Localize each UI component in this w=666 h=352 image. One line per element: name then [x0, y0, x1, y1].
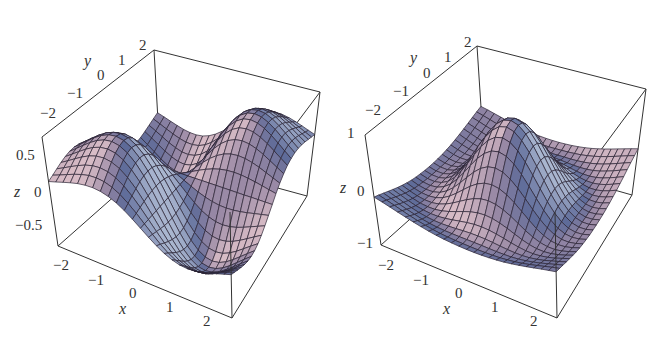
x-tick: 2 — [530, 313, 538, 329]
surface-plot-right: −2 −1 0 1 2 y 1 0 −1 z −2 −1 0 1 2 x — [339, 34, 646, 329]
x-tick: −1 — [88, 272, 104, 288]
z-tick: 1 — [347, 125, 355, 141]
surface-plot-left: −2 −1 0 1 2 y 0.5 0 −0.5 z −2 −1 0 1 2 x — [13, 37, 320, 329]
y-tick: −2 — [365, 102, 381, 118]
y-axis-label: y — [408, 49, 418, 67]
box-edge — [307, 92, 320, 196]
y-tick: 0 — [423, 65, 431, 81]
y-tick: −1 — [67, 85, 83, 101]
x-tick: 0 — [455, 285, 463, 301]
x-tick: 2 — [203, 313, 211, 329]
z-tick: 0 — [357, 183, 365, 199]
box-edge — [365, 46, 477, 135]
z-tick: 0 — [34, 184, 42, 200]
x-tick: −2 — [378, 257, 394, 273]
box-edge — [365, 135, 381, 245]
x-tick: 0 — [129, 285, 137, 301]
z-axis-label: z — [339, 179, 347, 196]
y-tick: 2 — [464, 34, 472, 50]
y-tick: 0 — [97, 67, 105, 83]
figure: −2 −1 0 1 2 y 0.5 0 −0.5 z −2 −1 0 1 2 x… — [0, 0, 666, 352]
surface-mesh — [374, 106, 638, 271]
box-edge — [477, 46, 646, 89]
z-tick: −0.5 — [15, 217, 42, 233]
y-tick: −2 — [40, 105, 56, 121]
y-axis-label: y — [82, 52, 92, 70]
y-tick: −1 — [393, 83, 409, 99]
z-axis-label: z — [13, 183, 21, 200]
x-tick: −2 — [53, 257, 69, 273]
x-tick: 1 — [166, 299, 174, 315]
box-edge — [154, 50, 320, 92]
z-tick: −1 — [357, 235, 373, 251]
y-tick: 1 — [118, 52, 126, 68]
x-tick: −1 — [413, 272, 429, 288]
box-edge — [42, 50, 154, 137]
box-edge — [42, 137, 58, 246]
z-tick: 0.5 — [16, 147, 35, 163]
surface-mesh — [49, 108, 315, 274]
x-axis-label: x — [442, 300, 450, 317]
x-tick: 1 — [491, 299, 499, 315]
x-axis-label: x — [118, 300, 126, 317]
y-tick: 1 — [444, 49, 452, 65]
y-tick: 2 — [139, 37, 147, 53]
